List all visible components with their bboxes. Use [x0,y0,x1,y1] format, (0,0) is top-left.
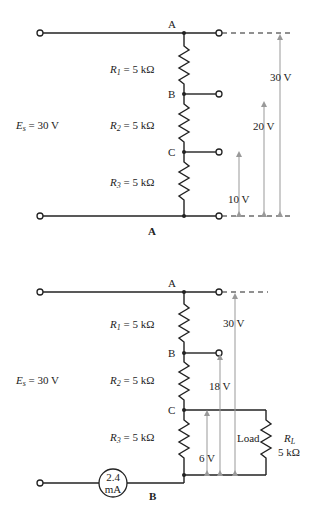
terminal-b [216,350,222,356]
node-label-b: B [168,347,175,359]
terminal-a [216,289,222,295]
resistor-r3 [179,410,189,483]
label-rl: RL [283,432,296,446]
label-20v: 20 V [253,120,275,132]
diagram-a: A B C R1 = 5 kΩ R2 = 5 kΩ R3 = 5 kΩ Es =… [15,18,293,237]
resistor-r2 [179,353,189,410]
resistor-r2 [179,94,189,152]
label-18v: 18 V [209,380,231,392]
node-label-c: C [168,146,175,158]
node-dot-b [182,92,186,96]
node-dot-ground [182,214,186,218]
node-label-b: B [168,88,175,100]
terminal-left-top [37,289,43,295]
resistor-r1 [179,33,189,94]
terminal-left-bottom [37,480,43,486]
terminal-ground [216,213,222,219]
terminal-c [216,149,222,155]
label-r3: R3 = 5 kΩ [109,176,154,190]
resistor-rl [261,410,271,475]
terminal-left-top [37,30,43,36]
terminal-left-bottom [37,213,43,219]
label-6v: 6 V [199,452,215,464]
node-dot-a [182,31,186,35]
node-dot-b [182,351,186,355]
node-dot-c [182,150,186,154]
label-r1: R1 = 5 kΩ [109,63,154,77]
diagram-b: A B C R1 = 5 kΩ R2 = 5 kΩ R3 = 5 kΩ Es =… [15,277,300,502]
label-10v: 10 V [228,193,250,205]
label-30v: 30 V [223,317,245,329]
label-source-voltage: Es = 30 V [15,119,59,133]
label-r2: R2 = 5 kΩ [109,374,154,388]
caption-a: A [148,225,156,237]
node-dot-c [182,408,186,412]
node-label-a: A [168,277,176,289]
resistor-r1 [179,292,189,353]
node-dot-a [182,290,186,294]
label-30v: 30 V [270,71,292,83]
label-r2: R2 = 5 kΩ [109,119,154,133]
label-r1: R1 = 5 kΩ [109,318,154,332]
terminal-b [216,91,222,97]
resistor-r3 [179,152,189,216]
terminal-a [216,30,222,36]
node-label-c: C [168,404,175,416]
meter-reading: 2.4 [106,471,120,483]
node-dot-ground [182,473,186,477]
caption-b: B [149,490,157,502]
label-rl-value: 5 kΩ [278,446,300,458]
label-source-voltage: Es = 30 V [15,374,59,388]
label-r3: R3 = 5 kΩ [109,431,154,445]
meter-unit: mA [105,483,122,495]
label-load: Load [237,432,260,444]
node-label-a: A [168,18,176,30]
voltage-divider-figure: A B C R1 = 5 kΩ R2 = 5 kΩ R3 = 5 kΩ Es =… [0,0,319,512]
